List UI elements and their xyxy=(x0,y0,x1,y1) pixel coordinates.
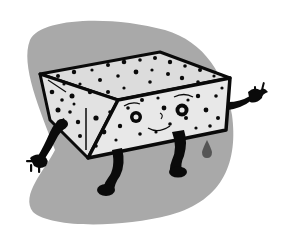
sponge-clipart xyxy=(0,0,291,233)
right-arm xyxy=(228,82,268,110)
sponge-illustration xyxy=(0,0,291,233)
